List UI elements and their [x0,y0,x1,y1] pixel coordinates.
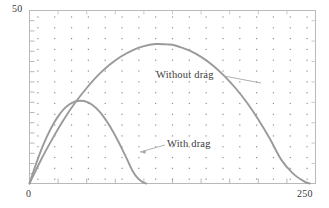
x-axis-max-label: 250 [297,188,313,199]
plot-canvas [0,0,329,208]
y-axis-max-label: 50 [12,3,23,14]
annotation-with-drag: With drag [167,138,211,149]
projectile-trajectory-figure: 50 0 250 Without drag With drag [0,0,329,208]
annotation-without-drag: Without drag [156,69,214,80]
x-axis-min-label: 0 [26,188,31,199]
